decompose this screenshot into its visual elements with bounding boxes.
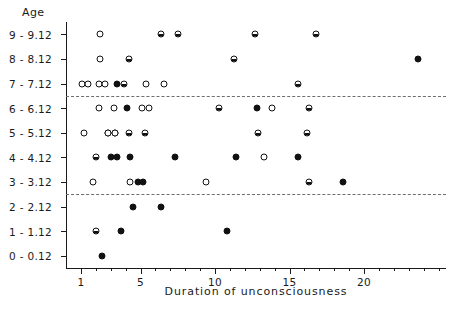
data-point: [171, 154, 178, 161]
data-point: [110, 105, 117, 112]
y-tick-label: 4 - 4.12: [9, 152, 52, 164]
data-point: [158, 203, 165, 210]
y-tick-label: 1 - 1.12: [9, 226, 52, 238]
data-point: [127, 178, 134, 185]
x-tick-minor: [170, 268, 171, 271]
x-tick-major: [290, 268, 291, 274]
y-tick-1: 1 - 1.12: [61, 231, 66, 232]
data-point: [139, 105, 146, 112]
data-point: [261, 154, 268, 161]
x-tick-minor: [126, 268, 127, 271]
data-point: [305, 178, 312, 185]
data-point: [113, 154, 120, 161]
y-tick-label: 5 - 5.12: [9, 127, 52, 139]
data-point: [104, 129, 111, 136]
data-point: [231, 55, 238, 62]
x-axis-line: [66, 268, 446, 269]
x-tick-minor: [111, 268, 112, 271]
x-tick-minor: [424, 268, 425, 271]
data-point: [146, 105, 153, 112]
y-tick-label: 7 - 7.12: [9, 78, 52, 90]
y-tick-label: 3 - 3.12: [9, 176, 52, 188]
data-point: [216, 105, 223, 112]
data-point: [80, 129, 87, 136]
x-tick-minor: [439, 268, 440, 271]
y-tick-label: 9 - 9.12: [9, 29, 52, 41]
x-tick-minor: [185, 268, 186, 271]
scatter-plot-figure: Age 0 - 0.121 - 1.122 - 2.123 - 3.124 - …: [0, 0, 453, 311]
x-tick-minor: [245, 268, 246, 271]
x-tick-minor: [230, 268, 231, 271]
x-tick-minor: [275, 268, 276, 271]
x-tick-minor: [334, 268, 335, 271]
y-tick-4: 4 - 4.12: [61, 157, 66, 158]
data-point: [101, 80, 108, 87]
y-tick-6: 6 - 6.12: [61, 108, 66, 109]
y-tick-label: 2 - 2.12: [9, 201, 52, 213]
y-tick-7: 7 - 7.12: [61, 84, 66, 85]
data-point: [124, 105, 131, 112]
y-axis-title: Age: [22, 6, 44, 19]
data-point: [414, 55, 421, 62]
data-point: [255, 129, 262, 136]
reference-line: [66, 96, 446, 97]
data-point: [158, 31, 165, 38]
data-point: [141, 129, 148, 136]
data-point: [112, 129, 119, 136]
data-point: [89, 178, 96, 185]
x-tick-major: [141, 268, 142, 274]
data-point: [174, 31, 181, 38]
y-tick-8: 8 - 8.12: [61, 59, 66, 60]
data-point: [121, 80, 128, 87]
data-point: [113, 80, 120, 87]
data-point: [305, 105, 312, 112]
x-tick-major: [81, 268, 82, 274]
data-point: [95, 105, 102, 112]
data-point: [92, 154, 99, 161]
data-point: [143, 80, 150, 87]
data-point: [125, 55, 132, 62]
x-tick-minor: [349, 268, 350, 271]
x-tick-minor: [379, 268, 380, 271]
y-tick-0: 0 - 0.12: [61, 256, 66, 257]
x-tick-minor: [304, 268, 305, 271]
data-point: [118, 228, 125, 235]
x-tick-minor: [319, 268, 320, 271]
plot-area: 0 - 0.121 - 1.122 - 2.123 - 3.124 - 4.12…: [66, 22, 446, 268]
x-tick-minor: [155, 268, 156, 271]
data-point: [140, 178, 147, 185]
data-point: [304, 129, 311, 136]
y-tick-2: 2 - 2.12: [61, 207, 66, 208]
data-point: [127, 154, 134, 161]
data-point: [98, 252, 105, 259]
data-point: [97, 55, 104, 62]
x-tick-minor: [200, 268, 201, 271]
data-point: [161, 80, 168, 87]
data-point: [295, 80, 302, 87]
x-axis-title: Duration of unconsciousness: [66, 285, 446, 298]
data-point: [295, 154, 302, 161]
y-tick-label: 8 - 8.12: [9, 53, 52, 65]
x-tick-minor: [96, 268, 97, 271]
data-point: [130, 203, 137, 210]
y-tick-label: 0 - 0.12: [9, 250, 52, 262]
data-point: [92, 228, 99, 235]
y-tick-5: 5 - 5.12: [61, 133, 66, 134]
x-tick-major: [364, 268, 365, 274]
data-point: [268, 105, 275, 112]
data-point: [203, 178, 210, 185]
y-axis-line: [66, 22, 67, 268]
data-point: [125, 129, 132, 136]
data-point: [97, 31, 104, 38]
data-point: [313, 31, 320, 38]
x-tick-minor: [409, 268, 410, 271]
x-tick-minor: [394, 268, 395, 271]
data-point: [252, 31, 259, 38]
data-point: [340, 178, 347, 185]
x-tick-major: [215, 268, 216, 274]
x-tick-minor: [260, 268, 261, 271]
data-point: [232, 154, 239, 161]
y-tick-9: 9 - 9.12: [61, 34, 66, 35]
data-point: [85, 80, 92, 87]
y-tick-3: 3 - 3.12: [61, 182, 66, 183]
